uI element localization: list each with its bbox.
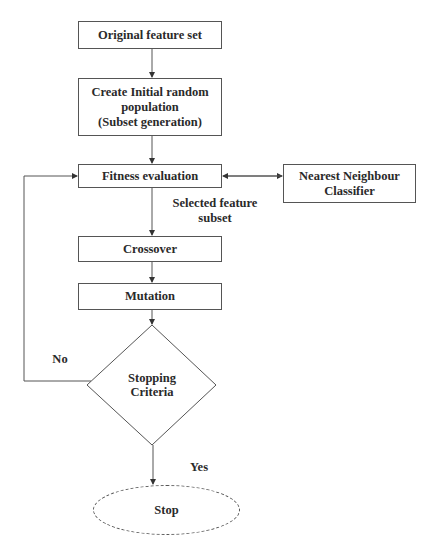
node-stopping-line2: Criteria [112, 385, 192, 399]
edge-label-selected-line1: Selected feature [170, 196, 260, 211]
node-crossover: Crossover [78, 236, 222, 262]
node-init-line1: Create Initial random [91, 85, 208, 100]
edge-label-selected-line2: subset [170, 211, 260, 226]
node-nn-line1: Nearest Neighbour [299, 169, 400, 184]
node-stopping-criteria: Stopping Criteria [112, 371, 192, 399]
node-original-feature-set: Original feature set [78, 21, 222, 49]
node-init-line2: population [121, 100, 179, 115]
edge-label-selected-feature-subset: Selected feature subset [170, 196, 260, 226]
node-nearest-neighbour-classifier: Nearest Neighbour Classifier [283, 164, 416, 203]
node-original-label: Original feature set [98, 28, 202, 43]
node-nn-line2: Classifier [324, 184, 375, 199]
node-mutation-label: Mutation [125, 289, 175, 304]
node-mutation: Mutation [78, 283, 222, 310]
node-stop-label: Stop [154, 503, 178, 518]
node-fitness-label: Fitness evaluation [102, 169, 198, 184]
node-stop: Stop [93, 485, 240, 535]
node-fitness-evaluation: Fitness evaluation [78, 164, 222, 188]
node-init-line3: (Subset generation) [98, 115, 202, 130]
node-crossover-label: Crossover [123, 242, 177, 257]
node-create-initial-population: Create Initial random population (Subset… [78, 78, 222, 136]
node-stopping-line1: Stopping [112, 371, 192, 385]
edge-label-no: No [48, 352, 72, 367]
edge-label-yes: Yes [186, 460, 212, 475]
